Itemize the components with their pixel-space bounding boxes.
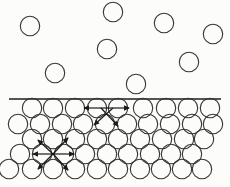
liquid-molecule-circle <box>65 159 84 178</box>
liquid-molecule-circle <box>43 159 62 178</box>
gas-molecules-layer <box>20 2 222 93</box>
surface-tension-diagram <box>0 0 230 187</box>
gas-molecule-circle <box>126 74 145 93</box>
liquid-molecule-circle <box>172 159 191 178</box>
interior-molecule-force-arrow <box>38 154 53 169</box>
liquid-molecule-circle <box>151 159 170 178</box>
gas-molecule-circle <box>97 39 116 58</box>
liquid-molecule-circle <box>52 114 71 133</box>
liquid-molecule-circle <box>87 159 106 178</box>
interior-molecule-force-arrow <box>53 138 68 154</box>
liquid-molecules-layer <box>0 98 223 178</box>
liquid-molecule-circle <box>192 159 211 178</box>
gas-molecule-circle <box>154 13 173 32</box>
liquid-molecule-circle <box>95 114 114 133</box>
liquid-molecule-circle <box>138 114 157 133</box>
gas-molecule-circle <box>45 63 64 82</box>
gas-molecule-circle <box>20 16 39 35</box>
liquid-molecule-circle <box>30 114 49 133</box>
liquid-molecule-circle <box>73 114 92 133</box>
liquid-molecule-circle <box>0 159 19 178</box>
liquid-molecule-circle <box>174 129 193 148</box>
liquid-molecule-circle <box>117 114 136 133</box>
interior-molecule-force-arrow <box>53 154 68 170</box>
gas-molecule-circle <box>103 2 122 21</box>
diagram-page <box>0 0 230 187</box>
liquid-molecule-circle <box>8 114 27 133</box>
interior-molecule-force-arrow <box>38 140 53 154</box>
liquid-molecule-circle <box>130 159 149 178</box>
gas-molecule-circle <box>179 52 198 71</box>
gas-molecule-circle <box>203 24 222 43</box>
liquid-molecule-circle <box>182 144 201 163</box>
liquid-molecule-circle <box>108 159 127 178</box>
